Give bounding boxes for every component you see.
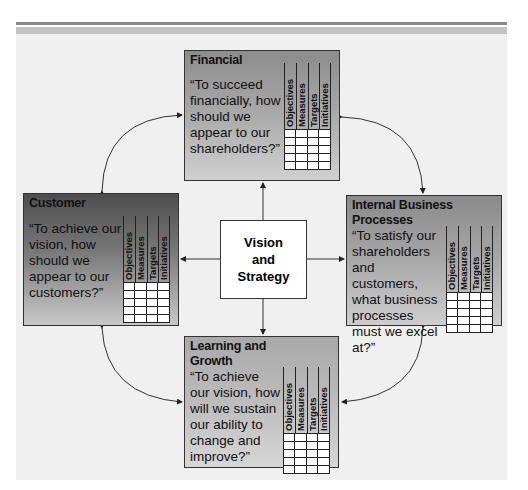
grid-header-initiatives: Initiatives <box>158 216 170 282</box>
grid-header-measures: Measures <box>295 367 307 433</box>
grid-header-initiatives: Initiatives <box>481 226 493 292</box>
curve-financial-internal <box>342 117 423 193</box>
grid-cells <box>284 129 331 170</box>
internal-scorecard-grid: Objectives Measures Targets Initiatives <box>446 226 493 333</box>
financial-title: Financial <box>190 53 242 68</box>
customer-box: Customer “To achieve our vision, how sho… <box>23 193 179 326</box>
curve-customer-learning <box>102 328 182 402</box>
grid-header-measures: Measures <box>296 63 308 129</box>
grid-header-targets: Targets <box>147 216 159 282</box>
customer-scorecard-grid: Objectives Measures Targets Initiatives <box>123 216 170 323</box>
vision-label-line-3: Strategy <box>237 268 289 285</box>
financial-scorecard-grid: Objectives Measures Targets Initiatives <box>284 63 331 170</box>
grid-cells <box>446 292 493 333</box>
financial-question: “To succeed financially, how should we a… <box>190 77 285 157</box>
customer-question: “To achieve our vision, how should we ap… <box>29 221 124 301</box>
grid-cells <box>283 433 330 474</box>
curve-customer-financial <box>102 115 182 191</box>
learning-title: Learning and Growth <box>190 339 290 369</box>
grid-cells <box>123 282 170 323</box>
grid-header-targets: Targets <box>470 226 482 292</box>
customer-title: Customer <box>29 196 86 211</box>
financial-box: Financial “To succeed financially, how s… <box>184 50 340 181</box>
grid-header-objectives: Objectives <box>283 367 295 433</box>
internal-title: Internal Business Processes <box>352 198 502 228</box>
grid-header-targets: Targets <box>308 63 320 129</box>
grid-header-measures: Measures <box>458 226 470 292</box>
grid-header-objectives: Objectives <box>446 226 458 292</box>
learning-question: “To achieve our vision, how will we sust… <box>190 369 282 465</box>
grid-header-objectives: Objectives <box>123 216 135 282</box>
learning-scorecard-grid: Objectives Measures Targets Initiatives <box>283 367 330 474</box>
internal-question: “To satisfy our shareholders and custome… <box>352 228 444 356</box>
internal-business-processes-box: Internal Business Processes “To satisfy … <box>346 195 502 326</box>
grid-header-initiatives: Initiatives <box>319 63 331 129</box>
grid-header-initiatives: Initiatives <box>318 367 330 433</box>
learning-and-growth-box: Learning and Growth “To achieve our visi… <box>184 336 339 468</box>
vision-and-strategy-box: Vision and Strategy <box>220 220 307 299</box>
grid-header-measures: Measures <box>135 216 147 282</box>
grid-header-objectives: Objectives <box>284 63 296 129</box>
vision-label-line-2: and <box>237 251 289 268</box>
grid-header-targets: Targets <box>307 367 319 433</box>
vision-label-line-1: Vision <box>237 234 289 251</box>
